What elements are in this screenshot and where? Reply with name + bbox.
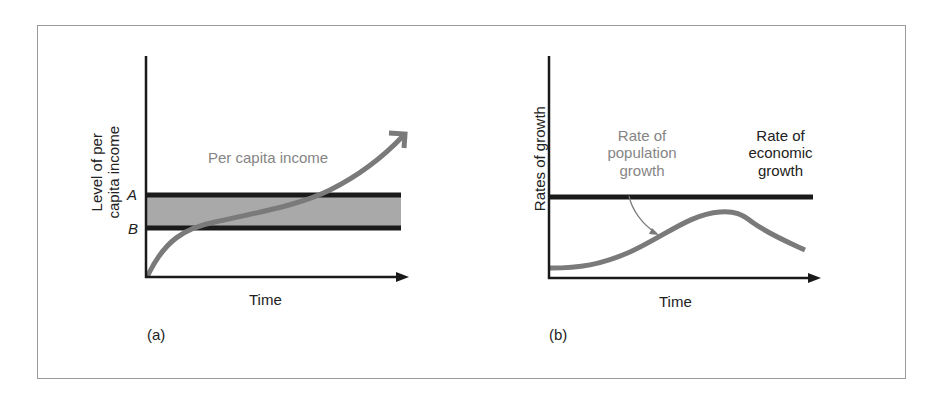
y-label-line-1: Level of per bbox=[88, 92, 105, 252]
panel-a-graphics bbox=[145, 56, 409, 282]
x-axis-arrow-icon bbox=[808, 273, 821, 283]
y-label-line-2: capita income bbox=[105, 92, 122, 252]
population-growth-label: Rate of population growth bbox=[588, 127, 696, 179]
x-axis-arrow-icon bbox=[396, 272, 409, 282]
per-capita-income-label: Per capita income bbox=[208, 149, 328, 166]
level-b-label: B bbox=[128, 220, 138, 237]
y-axis-label-a: Level of per capita income bbox=[88, 92, 123, 252]
x-axis-label-b: Time bbox=[659, 293, 692, 310]
population-growth-curve bbox=[550, 212, 805, 268]
y-axis-label-b: Rates of growth bbox=[531, 89, 548, 229]
panel-a-tag: (a) bbox=[147, 326, 165, 343]
economic-growth-label: Rate of economic growth bbox=[733, 127, 828, 179]
leader-line bbox=[629, 196, 656, 233]
level-a-label: A bbox=[127, 186, 137, 203]
panel-b-tag: (b) bbox=[549, 326, 567, 343]
diagram-graphics bbox=[0, 0, 935, 398]
x-axis-label-a: Time bbox=[249, 291, 282, 308]
